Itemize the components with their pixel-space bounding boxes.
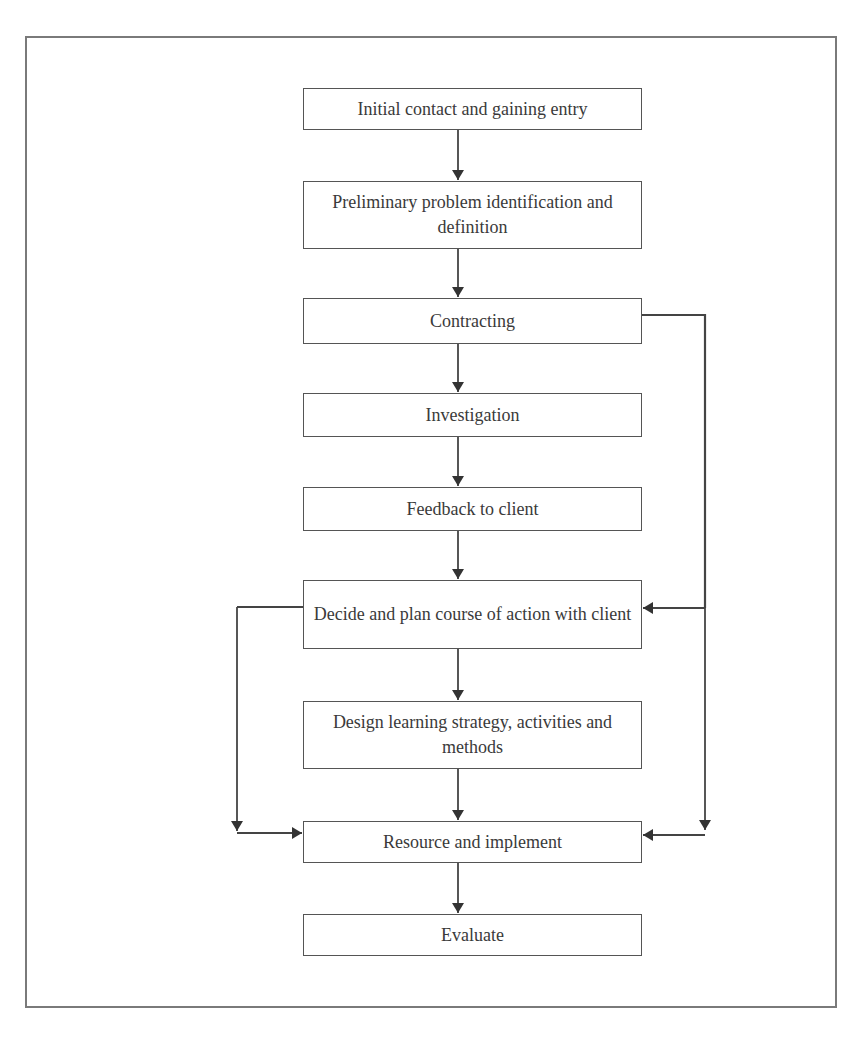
node-resource-implement: Resource and implement bbox=[303, 821, 642, 863]
node-initial-contact: Initial contact and gaining entry bbox=[303, 88, 642, 130]
node-label: Contracting bbox=[430, 309, 515, 334]
node-investigation: Investigation bbox=[303, 393, 642, 437]
node-label: Design learning strategy, activities and… bbox=[310, 710, 635, 760]
node-label: Resource and implement bbox=[383, 830, 562, 855]
node-evaluate: Evaluate bbox=[303, 914, 642, 956]
node-preliminary-problem: Preliminary problem identification and d… bbox=[303, 181, 642, 249]
node-label: Preliminary problem identification and d… bbox=[310, 190, 635, 240]
node-contracting: Contracting bbox=[303, 298, 642, 344]
node-feedback: Feedback to client bbox=[303, 487, 642, 531]
node-decide-plan: Decide and plan course of action with cl… bbox=[303, 580, 642, 649]
node-label: Investigation bbox=[426, 403, 520, 428]
node-label: Decide and plan course of action with cl… bbox=[314, 602, 631, 627]
node-label: Initial contact and gaining entry bbox=[358, 97, 588, 122]
node-design-strategy: Design learning strategy, activities and… bbox=[303, 701, 642, 769]
node-label: Feedback to client bbox=[407, 497, 539, 522]
node-label: Evaluate bbox=[441, 923, 504, 948]
